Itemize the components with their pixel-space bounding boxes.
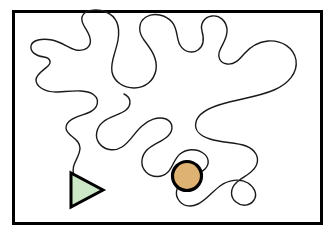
figure-canvas: Winding curve path between a triangle an… [0, 0, 336, 236]
figure-svg [0, 0, 336, 236]
circle-marker[interactable] [173, 162, 202, 191]
